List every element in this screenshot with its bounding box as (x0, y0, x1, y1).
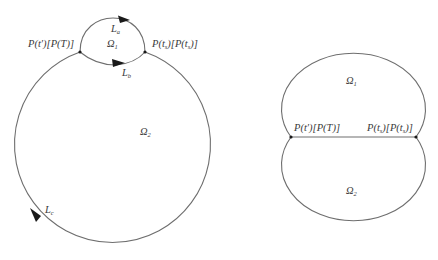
label-Lc: Lc (44, 204, 54, 216)
label-right-point: P(ts)[P(ts)] (366, 122, 413, 134)
junction-right-dot (143, 50, 146, 53)
right-diagram: P(t′)[P(T)] P(ts)[P(ts)] Ω1 Ω2 (281, 53, 425, 221)
label-left-point: P(t′)[P(T)] (293, 122, 340, 134)
left-diagram: P(t′)[P(T)] P(ts)[P(ts)] Ω1 Ω2 La Lb Lc (15, 16, 211, 243)
label-omega2: Ω2 (140, 126, 152, 138)
label-omega1: Ω1 (107, 38, 118, 50)
label-La: La (110, 23, 120, 35)
curve-Lb (80, 52, 145, 65)
label-omega2: Ω2 (346, 185, 358, 197)
label-Lb: Lb (121, 67, 132, 79)
label-right-point: P(ts)[P(ts)] (151, 38, 198, 50)
junction-left-dot (78, 50, 81, 53)
arrow-Lb-icon (112, 59, 125, 67)
junction-left-dot (289, 135, 292, 138)
label-omega1: Ω1 (346, 75, 357, 87)
curve-lower-lobe (281, 137, 425, 221)
diagram-canvas: P(t′)[P(T)] P(ts)[P(ts)] Ω1 Ω2 La Lb Lc … (0, 0, 438, 260)
curve-Lc (15, 52, 211, 242)
label-left-point: P(t′)[P(T)] (27, 38, 74, 50)
junction-right-dot (414, 135, 417, 138)
